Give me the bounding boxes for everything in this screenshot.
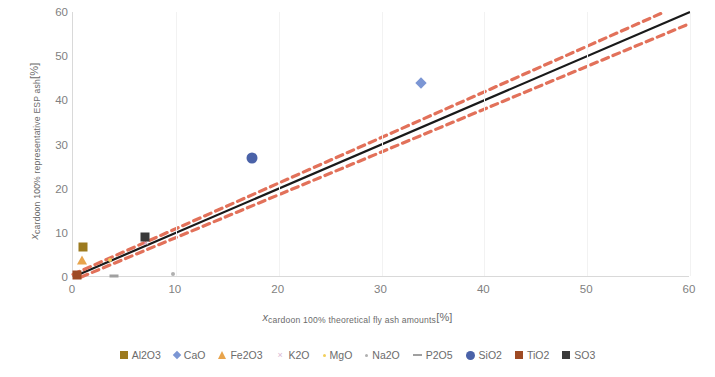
y-tick-label: 30 [34,139,68,151]
legend-item-label: Fe2O3 [230,349,262,361]
legend-item-k2o[interactable]: ×K2O [276,349,310,361]
legend-item-label: P2O5 [426,349,453,361]
data-point-na2o [171,272,175,276]
legend-item-sio2[interactable]: SiO2 [466,349,502,361]
x-tick-label: 20 [258,283,298,295]
legend-marker-dash-icon [413,354,422,356]
legend-item-na2o[interactable]: Na2O [365,349,399,361]
legend-item-label: SiO2 [479,349,502,361]
legend-item-mgo[interactable]: MgO [323,349,353,361]
y-tick-label: 20 [34,183,68,195]
legend-marker-dot-icon [323,354,326,357]
data-point-al2o3 [79,242,88,251]
scatter-chart: xcardoon 100% representative ESP ash[%] … [0,0,715,377]
x-tick-label: 30 [361,283,401,295]
legend-item-label: CaO [184,349,206,361]
y-axis-tick-labels: 0102030405060 [30,12,68,277]
legend-item-p2o5[interactable]: P2O5 [413,349,453,361]
data-point-tio2 [73,271,82,280]
legend-item-label: Al2O3 [132,349,161,361]
gridline-vertical [690,12,691,276]
legend-item-al2o3[interactable]: Al2O3 [120,349,161,361]
legend-item-so3[interactable]: SO3 [562,349,595,361]
x-axis-tick-labels: 0102030405060 [72,283,689,301]
plot-area: × [72,12,689,277]
legend-marker-square-icon [515,351,523,359]
data-point-p2o5 [110,275,119,278]
legend-item-label: TiO2 [527,349,549,361]
legend-item-label: Na2O [372,349,399,361]
x-axis-title: xcardoon 100% theoretical fly ash amount… [0,311,715,323]
legend-item-fe2o3[interactable]: Fe2O3 [218,349,262,361]
legend-item-label: K2O [289,349,310,361]
x-tick-label: 0 [52,283,92,295]
upper-confidence-band [73,12,664,274]
gridline-vertical [587,12,588,276]
y-tick-label: 0 [34,271,68,283]
y-tick-label: 10 [34,227,68,239]
legend-marker-triangle-icon [218,351,226,359]
chart-legend: Al2O3CaOFe2O3×K2OMgONa2OP2O5SiO2TiO2SO3 [0,349,715,361]
data-point-sio2 [246,152,257,163]
data-point-fe2o3 [77,255,87,264]
legend-marker-dot-icon [365,354,368,357]
gridline-vertical [176,12,177,276]
data-point-mgo [108,258,112,262]
x-axis-unit: [%] [436,311,453,323]
legend-marker-square-icon [562,351,570,359]
lower-confidence-band [81,23,690,277]
legend-marker-square-icon [120,351,128,359]
legend-item-tio2[interactable]: TiO2 [515,349,549,361]
legend-item-label: SO3 [574,349,595,361]
legend-item-cao[interactable]: CaO [174,349,206,361]
gridline-vertical [382,12,383,276]
x-tick-label: 10 [155,283,195,295]
y-tick-label: 60 [34,6,68,18]
legend-item-label: MgO [330,349,353,361]
y-tick-label: 50 [34,50,68,62]
x-tick-label: 60 [669,283,709,295]
legend-marker-x-icon: × [276,351,285,360]
gridline-vertical [279,12,280,276]
data-point-so3 [140,233,149,242]
x-tick-label: 40 [463,283,503,295]
legend-marker-circle-icon [466,351,475,360]
x-tick-label: 50 [566,283,606,295]
gridline-vertical [484,12,485,276]
legend-marker-diamond-icon [173,351,181,359]
x-axis-subscript: cardoon 100% theoretical fly ash amounts [268,315,436,325]
y-tick-label: 40 [34,94,68,106]
